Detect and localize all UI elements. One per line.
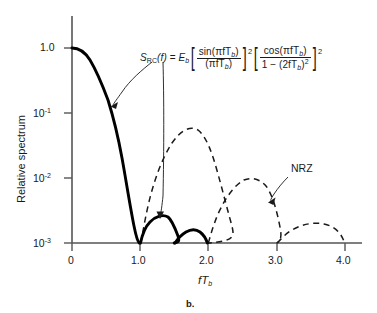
y-tick-label-2: 10-1 (33, 107, 51, 118)
figure-container: 1.0 10-1 10-2 10-3 Relative spectrum 0 1… (0, 0, 377, 313)
y-tick-label-1: 1.0 (40, 42, 55, 53)
figure-caption: b. (186, 299, 194, 309)
y-axis-title: Relative spectrum (16, 115, 27, 203)
x-tick-label-2: 2.0 (199, 255, 214, 266)
y-tick-marks (64, 48, 72, 243)
series-src-curve (72, 48, 207, 243)
series-label-nrz: NRZ (291, 163, 313, 174)
formula-leader-sidelobe (157, 62, 165, 219)
formula-annotation: SRC(f) = Eb[sin(πfTb)(πfTb)]2[cos(πfTb)1… (140, 46, 322, 70)
y-tick-label-4: 10-3 (33, 237, 51, 248)
x-tick-label-3: 3.0 (268, 255, 283, 266)
x-tick-label-0: 0 (68, 255, 74, 266)
series-nrz-curve (72, 48, 345, 243)
x-tick-label-1: 1.0 (131, 255, 146, 266)
x-tick-label-4: 4.0 (336, 255, 351, 266)
x-axis-title: fTb (198, 275, 212, 287)
y-tick-label-3: 10-2 (33, 172, 51, 183)
nrz-leader (268, 177, 288, 205)
x-tick-marks (72, 243, 345, 251)
